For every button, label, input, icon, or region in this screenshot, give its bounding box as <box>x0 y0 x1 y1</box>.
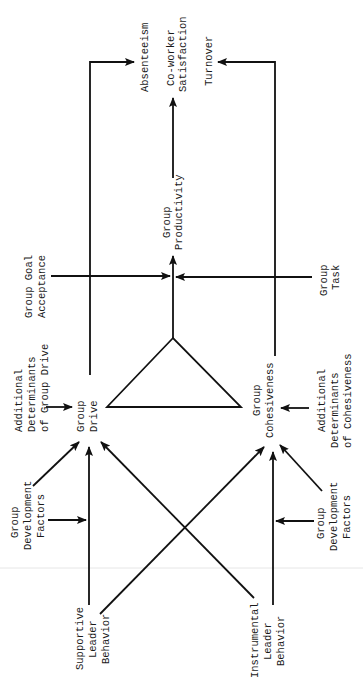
arrow-gdf-left-to-drive <box>33 442 79 486</box>
svg-text:Drive: Drive <box>88 400 100 432</box>
label-group-goal-acceptance: Group Goal Acceptance <box>23 255 48 318</box>
svg-text:Group: Group <box>75 400 87 432</box>
svg-text:Instrumental: Instrumental <box>249 602 261 678</box>
svg-text:Development: Development <box>22 481 34 550</box>
svg-text:of Cohesiveness: of Cohesiveness <box>342 353 354 448</box>
label-turnover: Turnover <box>203 36 215 86</box>
svg-text:Determinants: Determinants <box>329 372 341 448</box>
svg-text:Factors: Factors <box>341 495 353 539</box>
svg-text:Absenteeism: Absenteeism <box>139 23 151 92</box>
label-group-productivity: Group Productivity <box>161 174 185 250</box>
label-coworker-satisfaction: Co-worker Satisfaction <box>165 16 189 92</box>
label-group-development-factors-right: Group Development Factors <box>315 482 353 551</box>
svg-text:of Group Drive: of Group Drive <box>39 344 51 432</box>
label-group-drive: Group Drive <box>75 400 100 432</box>
combination-triangle <box>107 338 241 407</box>
arrow-drive-to-absenteeism <box>90 62 134 375</box>
svg-text:Turnover: Turnover <box>203 36 215 86</box>
svg-text:Group: Group <box>161 206 173 238</box>
svg-text:Satisfaction: Satisfaction <box>177 16 189 92</box>
label-group-task: Group Task <box>318 264 342 296</box>
svg-text:Group: Group <box>315 507 327 539</box>
svg-text:Development: Development <box>328 482 340 551</box>
svg-text:Group: Group <box>251 384 263 416</box>
svg-text:Additional: Additional <box>316 369 328 432</box>
label-additional-determinants-cohesiveness: Additional Determinants of Cohesiveness <box>316 353 354 448</box>
label-group-development-factors-left: Group Development Factors <box>9 481 47 550</box>
svg-text:Behavior: Behavior <box>100 614 112 664</box>
svg-text:Leader: Leader <box>87 620 99 658</box>
label-instrumental-leader-behavior: Instrumental Leader Behavior <box>249 602 287 678</box>
svg-text:Additional: Additional <box>13 369 25 432</box>
svg-text:Leader: Leader <box>262 622 274 660</box>
svg-text:Behavior: Behavior <box>275 616 287 666</box>
svg-text:Determinants: Determinants <box>26 356 38 432</box>
label-absenteeism: Absenteeism <box>139 23 151 92</box>
label-group-cohesiveness: Group Cohesiveness <box>251 362 276 438</box>
svg-text:Group: Group <box>318 264 330 296</box>
svg-text:Co-worker: Co-worker <box>165 29 177 86</box>
arrow-supportive-to-cohesiveness <box>100 447 264 614</box>
svg-text:Group Goal: Group Goal <box>23 255 35 318</box>
svg-text:Factors: Factors <box>35 494 47 538</box>
svg-text:Supportive: Supportive <box>74 607 86 670</box>
svg-text:Acceptance: Acceptance <box>36 255 48 318</box>
svg-text:Productivity: Productivity <box>173 174 185 250</box>
label-supportive-leader-behavior: Supportive Leader Behavior <box>74 607 112 670</box>
leader-behavior-group-productivity-diagram: Absenteeism Co-worker Satisfaction Turno… <box>0 0 363 686</box>
svg-text:Cohesiveness: Cohesiveness <box>264 362 276 438</box>
arrow-cohesiveness-to-turnover <box>218 62 275 356</box>
arrow-instrumental-to-drive <box>101 442 254 598</box>
label-additional-determinants-drive: Additional Determinants of Group Drive <box>13 344 51 432</box>
svg-text:Task: Task <box>330 265 342 290</box>
arrow-gdf-right-to-cohesiveness <box>280 445 322 491</box>
svg-text:Group: Group <box>9 506 21 538</box>
